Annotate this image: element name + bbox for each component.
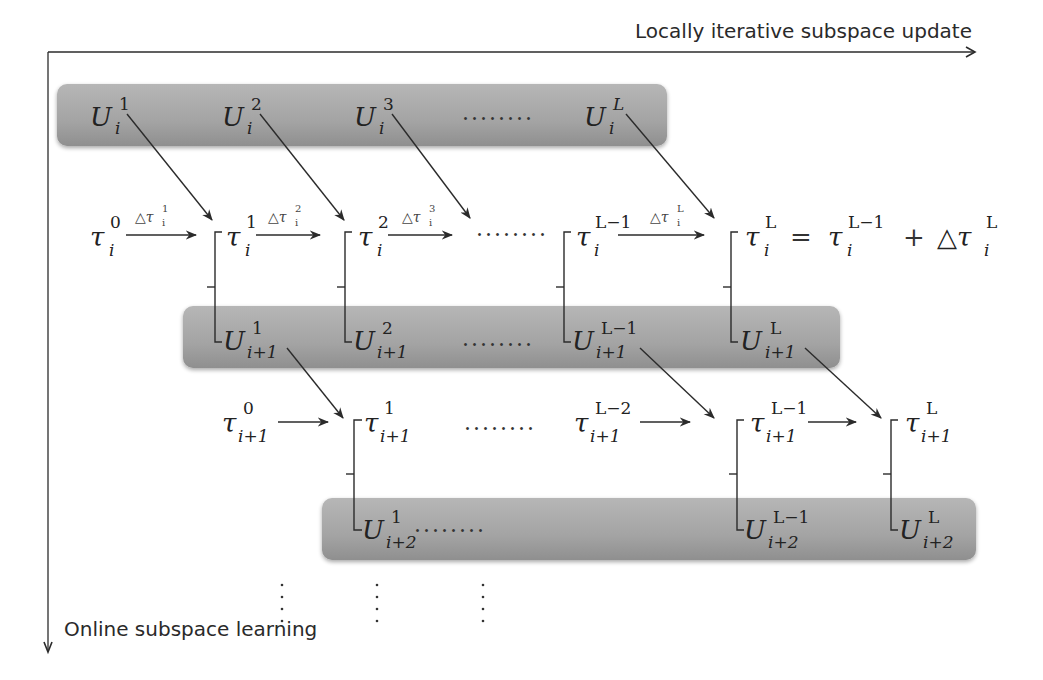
svg-text:0: 0 (110, 212, 121, 232)
svg-text:U: U (354, 102, 377, 132)
svg-text:i: i (984, 240, 989, 260)
svg-text:i: i (429, 217, 432, 228)
svg-text:L: L (926, 398, 937, 418)
delta-tau-i-2: △τ 2 i (268, 203, 301, 228)
delta-tau-i-3: △τ 3 i (402, 203, 435, 228)
svg-text:τ: τ (226, 222, 241, 252)
svg-text:τ: τ (750, 408, 765, 438)
row-i-plus-1-tau-chain: τ 0 i+1 τ 1 i+1 ........ τ L−2 i+1 τ L−1… (222, 398, 952, 446)
svg-text:L−1: L−1 (601, 318, 637, 338)
svg-text:τ: τ (828, 222, 843, 252)
row-i-plus-1-tau-ellipsis: ........ (464, 410, 536, 435)
horizontal-axis: Locally iterative subspace update (48, 19, 975, 57)
svg-text:i: i (162, 217, 165, 228)
svg-text:L: L (612, 94, 624, 114)
svg-text:i: i (594, 240, 599, 260)
svg-text:τ: τ (364, 408, 379, 438)
svg-text:τ: τ (576, 222, 591, 252)
svg-text:i: i (295, 217, 298, 228)
svg-text:i: i (847, 240, 852, 260)
tau-i+1-0: τ 0 i+1 (222, 398, 269, 446)
svg-text:L−1: L−1 (848, 212, 884, 232)
svg-text:2: 2 (295, 203, 301, 214)
tau-i+1-1: τ 1 i+1 (364, 398, 411, 446)
svg-text:i+1: i+1 (247, 342, 278, 362)
svg-text:τ: τ (905, 408, 920, 438)
svg-text:=: = (790, 222, 812, 252)
svg-text:U: U (584, 102, 607, 132)
tau-i+1-L-minus-2: τ L−2 i+1 (574, 398, 631, 446)
svg-text:2: 2 (251, 94, 262, 114)
svg-text:L−2: L−2 (595, 398, 631, 418)
svg-text:△τ: △τ (402, 209, 421, 225)
svg-text:2: 2 (382, 318, 393, 338)
delta-tau-i-L: △τ L i (650, 203, 684, 228)
svg-text:i+1: i+1 (238, 426, 269, 446)
delta-tau-i-1: △τ 1 i (135, 203, 168, 228)
svg-text:U: U (353, 326, 376, 356)
svg-text:i+1: i+1 (377, 342, 408, 362)
svg-text:i+2: i+2 (768, 532, 799, 552)
svg-text:U: U (740, 326, 763, 356)
svg-text:τ: τ (222, 408, 237, 438)
tau-i+1-L: τ L i+1 (905, 398, 952, 446)
svg-text:△τ: △τ (135, 209, 154, 225)
subspace-learning-diagram: Locally iterative subspace update Online… (0, 0, 1043, 680)
svg-text:i: i (677, 217, 680, 228)
svg-text:U: U (744, 515, 767, 545)
svg-text:U: U (572, 326, 595, 356)
svg-text:0: 0 (243, 398, 254, 418)
svg-text:U: U (223, 326, 246, 356)
svg-text:1: 1 (384, 398, 395, 418)
svg-text:i+1: i+1 (921, 426, 952, 446)
svg-text:1: 1 (119, 94, 130, 114)
row-i-plus-2-band-ellipsis: ........ (414, 512, 486, 537)
svg-text:i: i (609, 118, 614, 138)
svg-text:i: i (115, 118, 120, 138)
svg-text:L−1: L−1 (771, 398, 807, 418)
svg-text:i+2: i+2 (386, 532, 417, 552)
svg-text:1: 1 (252, 318, 263, 338)
tau-i-L-minus-1: τ L−1 i (576, 212, 631, 260)
svg-text:1: 1 (391, 507, 402, 527)
svg-text:i+1: i+1 (765, 342, 796, 362)
svg-text:U: U (362, 515, 385, 545)
svg-text:i+1: i+1 (380, 426, 411, 446)
svg-text:i: i (379, 118, 384, 138)
tau-i-2: τ 2 i (358, 212, 389, 260)
horizontal-axis-label: Locally iterative subspace update (635, 19, 972, 43)
svg-text:i+1: i+1 (766, 426, 797, 446)
svg-text:L: L (770, 318, 781, 338)
svg-text:+: + (903, 222, 925, 252)
svg-text:L: L (928, 507, 939, 527)
svg-text:i+1: i+1 (596, 342, 627, 362)
svg-text:τ: τ (358, 222, 373, 252)
svg-text:i: i (764, 240, 769, 260)
svg-text:△τ: △τ (937, 222, 972, 252)
svg-text:2: 2 (378, 212, 389, 232)
svg-text:i+2: i+2 (923, 532, 954, 552)
svg-text:τ: τ (745, 222, 760, 252)
svg-text:L−1: L−1 (773, 507, 809, 527)
svg-text:△τ: △τ (650, 209, 669, 225)
svg-text:U: U (899, 515, 922, 545)
svg-text:1: 1 (162, 203, 168, 214)
svg-text:U: U (222, 102, 245, 132)
svg-text:△τ: △τ (268, 209, 287, 225)
svg-text:L: L (765, 212, 776, 232)
tau-i-1: τ 1 i (226, 212, 257, 260)
row-i-plus-1-band-ellipsis: ........ (462, 326, 534, 351)
svg-text:U: U (90, 102, 113, 132)
svg-text:i+1: i+1 (590, 426, 621, 446)
svg-text:τ: τ (574, 408, 589, 438)
svg-text:i: i (377, 240, 382, 260)
row-i-tau-ellipsis: ........ (476, 216, 548, 241)
vertical-axis-label: Online subspace learning (64, 617, 317, 641)
svg-text:L−1: L−1 (595, 212, 631, 232)
svg-text:3: 3 (429, 203, 435, 214)
equation-tau-i-L: τ L i = τ L−1 i + △τ L i (745, 212, 997, 260)
tau-i-0: τ 0 i (90, 212, 121, 260)
svg-text:i: i (245, 240, 250, 260)
svg-text:3: 3 (383, 94, 394, 114)
svg-text:1: 1 (246, 212, 257, 232)
